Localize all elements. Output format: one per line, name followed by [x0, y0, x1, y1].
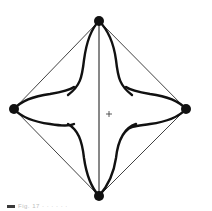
four-point-star-diagram [0, 0, 212, 211]
caption-text: Fig. 17 · · · · · · [18, 203, 67, 209]
star-arc-left-top [14, 87, 74, 109]
diamond-outline [14, 21, 186, 196]
star-arc-bottom-left [68, 124, 99, 196]
star-arc-right-top [126, 87, 186, 109]
curved-star-outline [14, 21, 186, 196]
vertex-dot-right [181, 104, 191, 114]
star-arc-top-right [99, 21, 132, 95]
caption-lead-mark [7, 205, 15, 208]
figure-caption: Fig. 17 · · · · · · [7, 203, 67, 209]
star-arc-top-left [68, 21, 99, 95]
center-plus-icon [106, 111, 112, 117]
star-arc-left-bottom [14, 109, 74, 126]
star-arc-bottom-right [99, 124, 136, 196]
vertex-dots [9, 16, 191, 201]
vertex-dot-left [9, 104, 19, 114]
vertex-dot-bottom [94, 191, 104, 201]
star-arc-right-bottom [126, 109, 186, 131]
vertex-dot-top [94, 16, 104, 26]
